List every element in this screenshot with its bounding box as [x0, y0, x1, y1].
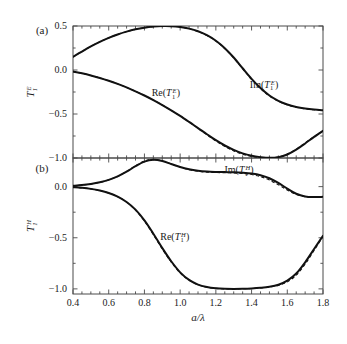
x-tick-label-6: 1.6	[281, 297, 294, 308]
x-tick-label-0: 0.4	[67, 297, 80, 308]
x-tick-label-1: 0.6	[102, 297, 115, 308]
x-tick-label-5: 1.4	[245, 297, 258, 308]
y-tick-label-b-0: 0.0	[55, 181, 68, 192]
y-tick-label-b-1: −0.5	[49, 232, 67, 243]
figure-container: 0.50.0−0.5−1.00.0−0.5−1.00.40.60.81.01.2…	[0, 0, 347, 344]
x-tick-label-3: 1.0	[174, 297, 187, 308]
y-tick-label-b-2: −1.0	[49, 283, 67, 294]
panel-letter-a: (a)	[36, 24, 49, 37]
y-tick-label-a-1: 0.0	[55, 64, 68, 75]
annotation-a-re-label: Re(T1E)	[152, 87, 180, 100]
panel-letter-b: (b)	[36, 162, 49, 175]
y-axis-label-a: T1E	[24, 86, 38, 97]
annotation-a-im-label: Im(T1E)	[250, 79, 278, 92]
y-tick-label-a-3: −1.0	[49, 152, 67, 163]
y-tick-label-a-0: 0.5	[55, 20, 68, 31]
two-panel-line-chart: 0.50.0−0.5−1.00.0−0.5−1.00.40.60.81.01.2…	[0, 0, 347, 344]
x-axis-label: a/λ	[191, 311, 205, 323]
x-tick-label-4: 1.2	[210, 297, 223, 308]
x-tick-label-7: 1.8	[317, 297, 330, 308]
x-tick-label-2: 0.8	[138, 297, 151, 308]
y-tick-label-a-2: −0.5	[49, 108, 67, 119]
